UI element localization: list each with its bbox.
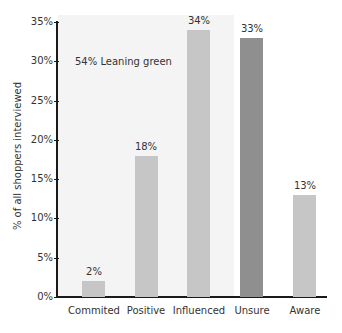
bar-unsure	[240, 38, 263, 297]
y-tick-label: 5%	[23, 252, 53, 264]
bar-aware	[293, 195, 316, 297]
x-category-label: Aware	[275, 305, 335, 317]
x-category-label: Influenced	[169, 305, 229, 317]
bar-value-label: 18%	[126, 141, 166, 153]
bar-value-label: 34%	[179, 15, 219, 27]
bar-value-label: 13%	[285, 180, 325, 192]
y-tick-label: 35%	[23, 16, 53, 28]
y-tick-label: 0%	[23, 291, 53, 303]
bar-positive	[135, 156, 158, 297]
leaning-green-annotation: 54% Leaning green	[75, 56, 172, 68]
y-tick-label: 30%	[23, 55, 53, 67]
bar-commited	[82, 281, 105, 297]
y-tick-label: 25%	[23, 95, 53, 107]
bar-value-label: 2%	[74, 266, 114, 278]
bar-chart: 54% Leaning green % of all shoppers inte…	[0, 0, 342, 333]
x-category-label: Positive	[116, 305, 176, 317]
y-tick-label: 20%	[23, 134, 53, 146]
x-category-label: Commited	[64, 305, 124, 317]
x-category-label: Unsure	[222, 305, 282, 317]
y-axis	[56, 21, 58, 298]
bar-value-label: 33%	[232, 23, 272, 35]
y-tick-label: 15%	[23, 173, 53, 185]
y-tick-label: 10%	[23, 212, 53, 224]
bar-influenced	[187, 30, 210, 297]
